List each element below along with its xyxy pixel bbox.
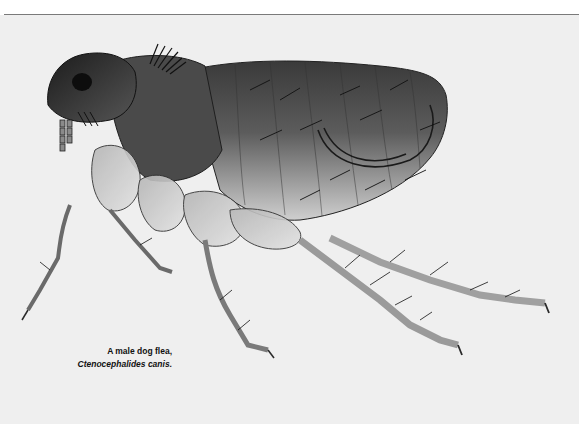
mid-coxa: [138, 175, 185, 231]
caption-common-name: A male dog flea,: [72, 345, 172, 358]
caption-scientific-name: Ctenocephalides canis.: [72, 358, 172, 371]
eye: [72, 73, 92, 91]
figure-caption: A male dog flea, Ctenocephalides canis.: [72, 345, 172, 371]
abdomen: [200, 61, 447, 220]
palps: [60, 120, 72, 151]
